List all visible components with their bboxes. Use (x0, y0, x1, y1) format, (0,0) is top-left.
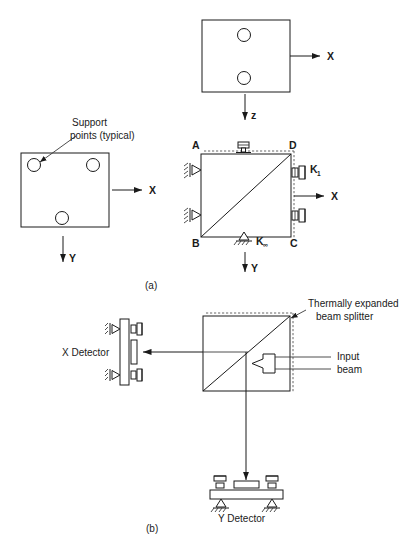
x-detector-label: X Detector (62, 347, 110, 358)
mount-plate-corner-label-d: D (289, 139, 297, 151)
input-beam-callout: Input beam (252, 351, 362, 375)
left-plate-y-axis-label: Y (69, 252, 76, 264)
left-plate-support-hole-bottom (56, 212, 69, 225)
mount-plate-right-spring-upper (292, 166, 305, 179)
x-detector-spring-clamp-upper (131, 323, 142, 335)
x-detector-sensor-element (131, 340, 137, 364)
splitter-callout-line2: beam splitter (316, 311, 374, 322)
y-detector-label: Y Detector (218, 513, 266, 524)
input-beam-callout-line2: beam (337, 364, 362, 375)
mount-plate-corner-label-b: B (192, 237, 200, 249)
technical-diagram: X z Support points (typical) X Y (0, 0, 417, 552)
x-detector-assembly: X Detector (62, 319, 142, 385)
y-detector-pin-support-left (211, 499, 229, 512)
top-plate-z-axis-label: z (251, 109, 256, 121)
x-detector-roller-support-upper (105, 323, 120, 335)
y-detector-mount-bar (210, 490, 283, 499)
x-detector-roller-support-lower (105, 369, 120, 381)
panel-b-splitter-block (203, 313, 293, 392)
mount-plate-spring-constant-subscript: 1 (317, 170, 321, 177)
x-detector-mount-bar (120, 319, 129, 385)
input-beam-callout-line1: Input (337, 351, 359, 362)
mount-plate-corner-label-c: C (290, 237, 298, 249)
splitter-callout-line1: Thermally expanded (308, 298, 399, 309)
mount-plate-right-spring-lower (292, 209, 305, 222)
figure-root: X z Support points (typical) X Y (0, 0, 417, 552)
x-detector-spring-clamp-lower (131, 369, 142, 381)
support-points-callout-line1: Support (72, 117, 107, 128)
top-plate-support-hole-lower (238, 72, 251, 85)
support-points-callout-line2: points (typical) (70, 130, 134, 141)
mount-plate-base-stiffness-subscript: ∞ (263, 241, 268, 248)
top-plate-support-hole-upper (238, 29, 251, 42)
left-plate-support-hole-top-right (87, 159, 100, 172)
mount-plate-x-axis-label: X (331, 190, 338, 202)
y-detector-assembly: Y Detector (210, 476, 283, 524)
y-detector-sensor-element (234, 481, 259, 488)
panel-a-left-plate: Support points (typical) X Y (21, 117, 156, 264)
top-plate-x-axis-label: X (327, 50, 334, 62)
left-plate-support-hole-top-left (28, 159, 41, 172)
left-plate-x-axis-label: X (149, 184, 156, 196)
panel-a-top-plate: X z (202, 20, 334, 121)
panel-a-mount-plate: A B C D (184, 139, 338, 274)
y-detector-spring-clamp-left (214, 476, 226, 488)
mount-plate-left-roller-support-lower (184, 208, 201, 223)
mount-plate-corner-label-a: A (192, 139, 200, 151)
caption-a: (a) (145, 280, 157, 291)
caption-b: (b) (146, 523, 158, 534)
y-detector-spring-clamp-right (266, 476, 278, 488)
mount-plate-left-roller-support-upper (184, 163, 201, 178)
y-detector-pin-support-right (262, 499, 280, 512)
mount-plate-y-axis-label: Y (251, 262, 258, 274)
splitter-callout: Thermally expanded beam splitter (291, 298, 399, 322)
